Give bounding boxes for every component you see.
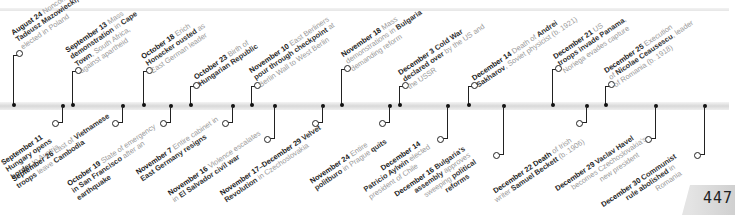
connector-line — [341, 71, 342, 105]
event-label: October 23 Birth of Hungarian Republic — [193, 36, 260, 89]
timeline-dot-icon — [12, 103, 16, 107]
connector-line — [274, 106, 275, 137]
timeline-dot-icon — [467, 103, 471, 107]
event-marker-icon — [16, 50, 23, 57]
connector-line — [143, 73, 144, 105]
timeline-dot-icon — [340, 103, 344, 107]
timeline-dot-icon — [398, 103, 402, 107]
connector-line — [13, 58, 14, 105]
event-marker-icon — [379, 120, 386, 127]
connector-line — [503, 106, 504, 153]
event-marker-icon — [694, 152, 701, 159]
event-label: November 10 East Berliners pour through … — [248, 15, 341, 89]
page-number-tab: 447 — [690, 185, 735, 215]
event-marker-icon — [437, 136, 444, 143]
timeline-dot-icon — [71, 103, 75, 107]
timeline-bar — [0, 102, 729, 110]
event-marker-icon — [52, 120, 59, 127]
timeline-dot-icon — [189, 103, 193, 107]
event-label: October 18 Erich Honecker ousted as East… — [140, 15, 212, 75]
timeline-dot-icon — [142, 103, 146, 107]
connector-line — [704, 106, 705, 153]
connector-line — [72, 73, 73, 105]
page-number: 447 — [703, 189, 733, 207]
connector-line — [655, 106, 656, 137]
timeline-dot-icon — [604, 103, 608, 107]
timeline-dot-icon — [551, 103, 555, 107]
event-marker-icon — [493, 152, 500, 159]
connector-line — [552, 71, 553, 105]
event-marker-icon — [576, 120, 583, 127]
connector-line — [447, 106, 448, 137]
event-marker-icon — [160, 120, 167, 127]
timeline-dot-icon — [250, 103, 254, 107]
